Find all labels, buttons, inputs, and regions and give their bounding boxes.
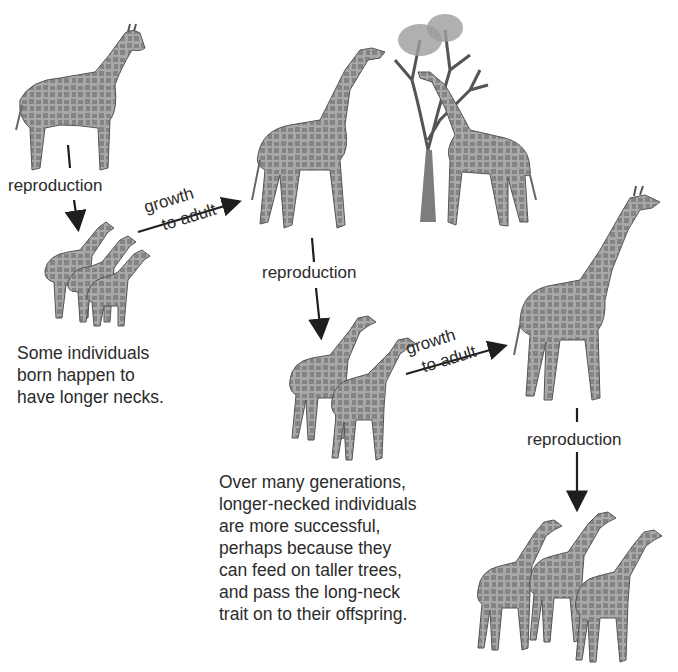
- label-reproduction-3: reproduction: [527, 430, 622, 450]
- adult-long-neck-illustration: [514, 186, 660, 400]
- adults-feeding-illustration: [252, 14, 536, 228]
- offspring-3-illustration: [478, 512, 663, 662]
- label-reproduction-1: reproduction: [8, 176, 103, 196]
- offspring-1-illustration: [45, 222, 150, 326]
- ancestor-giraffe-illustration: [16, 24, 145, 170]
- arrow-reproduction-2: [312, 238, 321, 336]
- offspring-2-illustration: [290, 316, 416, 460]
- caption-variation: Some individuals born happen to have lon…: [17, 342, 164, 408]
- label-reproduction-2: reproduction: [262, 263, 357, 283]
- caption-selection: Over many generations, longer-necked ind…: [219, 471, 416, 625]
